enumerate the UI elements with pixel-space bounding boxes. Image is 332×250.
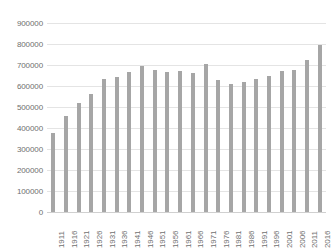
y-axis-tick-label: 700000 (0, 61, 43, 70)
bar[interactable] (229, 84, 233, 212)
y-axis-tick-label: 100000 (0, 187, 43, 196)
bar[interactable] (127, 72, 131, 212)
bar-slot (199, 23, 212, 212)
x-axis-tick-label: 1916 (70, 231, 79, 248)
bar-slot (72, 23, 85, 212)
bar[interactable] (102, 79, 106, 212)
bar[interactable] (254, 79, 258, 212)
y-axis-tick-label: 0 (0, 208, 43, 217)
x-axis-tick-label: 2001 (285, 231, 294, 248)
bar-slot (313, 23, 326, 212)
bar[interactable] (165, 72, 169, 212)
bar[interactable] (89, 94, 93, 212)
y-axis-tick-label: 400000 (0, 124, 43, 133)
bar-slot (136, 23, 149, 212)
x-axis-tick-label: 1946 (146, 231, 155, 248)
x-axis-tick-label: 1986 (247, 231, 256, 248)
x-axis-tick-labels: 1911191619211926193119361941194619511956… (47, 214, 326, 250)
y-axis-tick-label: 600000 (0, 82, 43, 91)
x-axis-tick-label: 1991 (260, 231, 269, 248)
y-axis-tick-label: 500000 (0, 103, 43, 112)
x-axis-tick-label: 1981 (234, 231, 243, 248)
x-axis-tick-label: 1966 (196, 231, 205, 248)
x-axis-tick-label: 1996 (272, 231, 281, 248)
x-axis-tick-label: 1971 (209, 231, 218, 248)
bar[interactable] (64, 116, 68, 212)
bar-slot (47, 23, 60, 212)
x-axis-tick-label: 2016 (323, 231, 332, 248)
bar-slot (174, 23, 187, 212)
bar-slot (263, 23, 276, 212)
x-axis-tick-label: 1921 (82, 231, 91, 248)
bar-slot (301, 23, 314, 212)
bar[interactable] (305, 60, 309, 212)
x-axis-tick-label: 1951 (158, 231, 167, 248)
bar[interactable] (153, 70, 157, 212)
x-axis-tick-label: 1911 (57, 231, 66, 248)
bar[interactable] (204, 64, 208, 212)
x-axis-tick-label: 1936 (120, 231, 129, 248)
bar[interactable] (178, 71, 182, 212)
bar[interactable] (216, 80, 220, 212)
bar[interactable] (280, 71, 284, 212)
bar-slot (288, 23, 301, 212)
bar-slot (148, 23, 161, 212)
bar[interactable] (77, 103, 81, 212)
bar[interactable] (242, 82, 246, 212)
bar-slot (85, 23, 98, 212)
x-axis-tick-label: 1941 (133, 231, 142, 248)
x-axis-line (47, 212, 326, 213)
bar[interactable] (191, 73, 195, 212)
bar-slot (187, 23, 200, 212)
y-axis-tick-labels: 0100000200000300000400000500000600000700… (0, 0, 43, 250)
bar-slot (275, 23, 288, 212)
y-axis-tick-label: 300000 (0, 145, 43, 154)
bar-chart-figure: 0100000200000300000400000500000600000700… (0, 0, 332, 250)
x-axis-tick-label: 2011 (310, 231, 319, 248)
x-axis-tick-label: 2006 (298, 231, 307, 248)
bar-slot (60, 23, 73, 212)
bar[interactable] (51, 133, 55, 212)
bar-slot (225, 23, 238, 212)
bar-slot (123, 23, 136, 212)
x-axis-tick-label: 1931 (108, 231, 117, 248)
bar-slot (237, 23, 250, 212)
x-axis-tick-label: 1961 (184, 231, 193, 248)
bar-slot (110, 23, 123, 212)
x-axis-tick-label: 1956 (171, 231, 180, 248)
bars-layer (47, 23, 326, 212)
bar[interactable] (318, 45, 322, 212)
bar-slot (161, 23, 174, 212)
x-axis-tick-label: 1926 (95, 231, 104, 248)
bar-slot (212, 23, 225, 212)
bar[interactable] (267, 76, 271, 212)
x-axis-tick-label: 1976 (222, 231, 231, 248)
y-axis-tick-label: 200000 (0, 166, 43, 175)
bar-slot (98, 23, 111, 212)
bar[interactable] (115, 77, 119, 212)
y-axis-tick-label: 800000 (0, 40, 43, 49)
bar[interactable] (140, 66, 144, 212)
bar-slot (250, 23, 263, 212)
y-axis-tick-label: 900000 (0, 19, 43, 28)
bar[interactable] (292, 70, 296, 212)
